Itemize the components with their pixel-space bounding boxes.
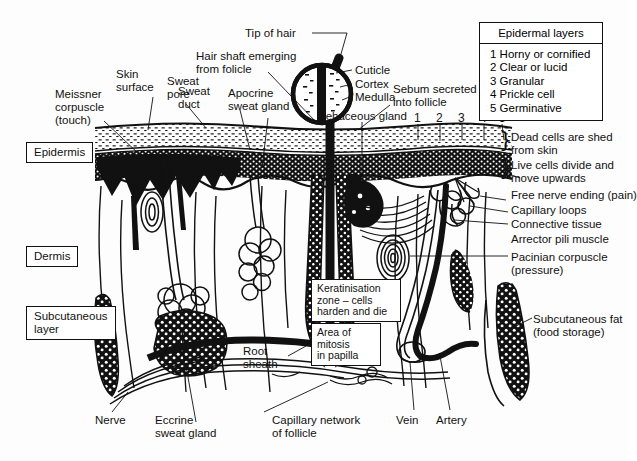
legend-item: 4 Prickle cell bbox=[480, 88, 602, 101]
label-hair-shaft-emerging: Hair shaft emerging from folicle bbox=[196, 50, 296, 76]
region-label-subcutaneous-layer: Subcutaneous layer bbox=[26, 306, 116, 340]
region-label-dermis: Dermis bbox=[26, 246, 78, 267]
label-connective-tissue: Connective tissue bbox=[511, 218, 602, 231]
label-vein: Vein bbox=[396, 414, 418, 427]
label-skin-surface: Skin surface bbox=[116, 68, 154, 94]
label-live-cells-divide: Live cells divide and move upwards bbox=[511, 159, 614, 185]
label-nerve: Nerve bbox=[95, 414, 126, 427]
label-meissner-corpuscle: Meissner corpuscle (touch) bbox=[55, 88, 104, 126]
label-sebaceous-gland: Sebaceous gland bbox=[318, 110, 407, 123]
meissner-corpuscle-art bbox=[141, 192, 163, 232]
legend-items: 1 Horny or cornified 2 Clear or lucid 3 … bbox=[480, 44, 602, 120]
callout-area-of-mitosis: Area of mitosis in papilla bbox=[311, 323, 381, 366]
label-cuticle: Cuticle bbox=[355, 64, 390, 77]
callout-keratinisation-zone: Keratinisation zone – cells harden and d… bbox=[311, 279, 401, 322]
legend-item: 3 Granular bbox=[480, 75, 602, 88]
label-tip-of-hair: Tip of hair bbox=[245, 27, 296, 40]
label-subcutaneous-fat: Subcutaneous fat (food storage) bbox=[533, 313, 623, 339]
label-apocrine-sweat-gland: Apocrine sweat gland bbox=[228, 87, 289, 113]
label-free-nerve-ending: Free nerve ending (pain) bbox=[511, 189, 637, 202]
label-root-sheath: Root sheath bbox=[243, 345, 278, 371]
legend-item: 1 Horny or cornified bbox=[480, 48, 602, 61]
label-sebum-secreted: Sebum secreted into follicle bbox=[393, 83, 477, 109]
legend-item: 2 Clear or lucid bbox=[480, 61, 602, 74]
label-arrector-pili-muscle: Arrector pili muscle bbox=[511, 233, 609, 246]
layer-number-1: 1 bbox=[414, 111, 421, 125]
label-artery: Artery bbox=[436, 414, 467, 427]
label-medulla: Medulla bbox=[355, 91, 395, 104]
label-pacinian-corpuscle: Pacinian corpuscle (pressure) bbox=[511, 251, 608, 277]
label-capillary-loops: Capillary loops bbox=[511, 204, 586, 217]
label-cortex: Cortex bbox=[355, 78, 389, 91]
layer-number-2: 2 bbox=[436, 111, 443, 125]
legend-heading: Epidermal layers bbox=[480, 23, 602, 44]
layer-number-3: 3 bbox=[458, 111, 465, 125]
label-eccrine-sweat-gland: Eccrine sweat gland bbox=[155, 414, 216, 440]
legend-item: 5 Germinative bbox=[480, 102, 602, 115]
label-capillary-network: Capillary network of follicle bbox=[272, 414, 360, 440]
label-sweat-duct: Sweat duct bbox=[178, 85, 210, 111]
epidermal-layers-legend: Epidermal layers 1 Horny or cornified 2 … bbox=[479, 22, 603, 121]
region-label-epidermis: Epidermis bbox=[26, 142, 93, 163]
label-dead-cells-shed: Dead cells are shed from skin bbox=[511, 131, 613, 157]
